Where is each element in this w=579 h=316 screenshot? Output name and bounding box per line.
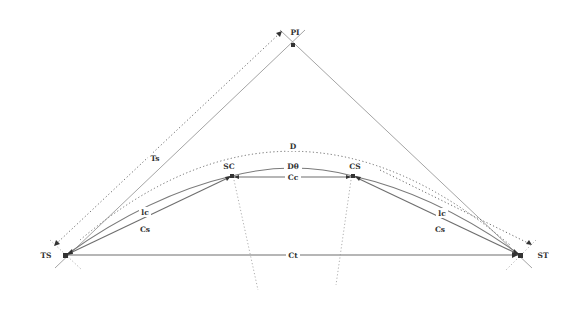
- cs-point: [351, 174, 355, 178]
- ts-label: Ts: [150, 154, 159, 163]
- ts-point-label: TS: [41, 251, 52, 260]
- st-arrow: [526, 240, 532, 245]
- cc-label: Cc: [288, 173, 299, 182]
- lc-left-label: lc: [141, 208, 149, 217]
- cs-right-arrow: [355, 176, 361, 181]
- sc-label: SC: [223, 162, 234, 171]
- ct-label: Ct: [288, 251, 298, 260]
- forward-tangent-line: [280, 30, 532, 268]
- st-point-label: ST: [538, 251, 549, 260]
- sc-point: [230, 174, 234, 178]
- ts-dimension-line: [56, 33, 280, 244]
- dtheta-label: Dθ: [287, 162, 299, 171]
- st-dimension-line: [380, 170, 530, 244]
- pi-point: [291, 43, 295, 47]
- cs-label: CS: [349, 162, 360, 171]
- cs-right-label: Cs: [435, 225, 445, 234]
- lc-right-label: lc: [438, 209, 446, 218]
- st-point: [518, 253, 523, 258]
- radius-line-cs: [336, 180, 351, 285]
- back-tangent-line: [55, 30, 305, 268]
- ts-point: [63, 253, 68, 258]
- radius-line-sc: [234, 180, 258, 290]
- pi-label: PI: [290, 28, 300, 37]
- d-label: D: [290, 142, 297, 151]
- cs-left-label: Cs: [140, 225, 150, 234]
- spiral-curve-diagram: Ts D Dθ Cc Ct lc Cs lc Cs PI SC CS: [0, 0, 579, 316]
